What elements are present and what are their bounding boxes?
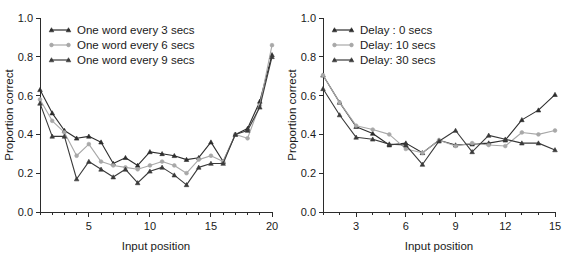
x-tick-label: 15 <box>549 220 561 232</box>
data-point <box>50 111 55 115</box>
legend-swatch-marker <box>350 43 354 47</box>
data-point <box>111 175 116 179</box>
right-legend: Delay : 0 secsDelay: 10 secsDelay: 30 se… <box>332 24 435 66</box>
data-point <box>123 155 128 159</box>
legend-label: Delay : 0 secs <box>360 24 432 36</box>
x-tick-label: 15 <box>205 220 217 232</box>
data-point <box>454 144 458 148</box>
legend-swatch-marker <box>50 43 54 47</box>
data-point <box>136 167 140 171</box>
data-point <box>520 118 525 122</box>
series-line <box>40 55 272 166</box>
data-point <box>486 133 491 137</box>
data-point <box>421 151 425 155</box>
x-tick-label: 9 <box>453 220 459 232</box>
left-series-2 <box>38 55 275 187</box>
legend-swatch-marker <box>333 43 337 47</box>
data-point <box>148 164 152 168</box>
x-tick-label: 20 <box>266 220 278 232</box>
y-tick-label: 0.0 <box>301 206 316 218</box>
data-point <box>50 119 54 123</box>
data-point <box>172 173 177 177</box>
data-point <box>321 73 325 77</box>
y-tick-label: 0.8 <box>301 51 316 63</box>
data-point <box>160 160 164 164</box>
data-point <box>537 133 541 137</box>
series-line <box>40 57 272 185</box>
x-tick-label: 6 <box>403 220 409 232</box>
data-point <box>209 154 213 158</box>
data-point <box>487 143 491 147</box>
y-tick-label: 0.0 <box>18 206 33 218</box>
data-point <box>75 154 79 158</box>
data-point <box>371 128 375 132</box>
data-point <box>246 136 250 140</box>
left-legend: One word every 3 secsOne word every 6 se… <box>49 24 195 66</box>
legend-swatch-marker <box>67 43 71 47</box>
chart-panel-right: 0.00.20.40.60.81.03691215Input positionP… <box>283 0 566 257</box>
data-point <box>553 92 558 96</box>
y-tick-label: 0.4 <box>301 128 316 140</box>
y-axis-title: Proportion correct <box>3 68 15 160</box>
y-tick-label: 1.0 <box>18 12 33 24</box>
y-tick-label: 0.4 <box>18 128 33 140</box>
y-tick-label: 1.0 <box>301 12 316 24</box>
data-point <box>160 165 165 169</box>
data-point <box>185 171 189 175</box>
y-axis-title: Proportion correct <box>286 68 298 160</box>
x-tick-label: 12 <box>499 220 511 232</box>
data-point <box>354 124 358 128</box>
data-point <box>111 164 115 168</box>
data-point <box>270 43 274 47</box>
data-point <box>197 158 201 162</box>
legend-label: One word every 9 secs <box>77 54 195 66</box>
y-tick-label: 0.6 <box>301 90 316 102</box>
figure-container: 0.00.20.40.60.81.05101520Input positionP… <box>0 0 566 257</box>
legend-label: Delay: 10 secs <box>360 39 436 51</box>
y-tick-label: 0.6 <box>18 90 33 102</box>
data-point <box>38 87 43 91</box>
x-tick-label: 5 <box>86 220 92 232</box>
y-tick-label: 0.2 <box>18 167 33 179</box>
y-tick-label: 0.2 <box>301 167 316 179</box>
x-tick-label: 3 <box>353 220 359 232</box>
axis-spines <box>323 18 555 212</box>
data-point <box>453 128 458 132</box>
data-point <box>503 144 507 148</box>
data-point <box>87 142 91 146</box>
data-point <box>99 160 103 164</box>
data-point <box>172 164 176 168</box>
data-point <box>209 140 214 144</box>
data-point <box>338 100 342 104</box>
data-point <box>520 131 524 135</box>
y-tick-label: 0.8 <box>18 51 33 63</box>
data-point <box>404 147 408 151</box>
legend-label: One word every 6 secs <box>77 39 195 51</box>
legend-label: One word every 3 secs <box>77 24 195 36</box>
x-axis-title: Input position <box>122 240 190 252</box>
data-point <box>321 87 326 91</box>
data-point <box>387 133 391 137</box>
data-point <box>99 167 104 171</box>
chart-panel-left: 0.00.20.40.60.81.05101520Input positionP… <box>0 0 283 257</box>
x-axis-title: Input position <box>405 240 473 252</box>
data-point <box>553 129 557 133</box>
data-point <box>470 141 474 145</box>
data-point <box>87 159 92 163</box>
right-chart-svg: 0.00.20.40.60.81.03691215Input positionP… <box>283 0 566 257</box>
left-chart-svg: 0.00.20.40.60.81.05101520Input positionP… <box>0 0 283 257</box>
legend-label: Delay: 30 secs <box>360 54 436 66</box>
x-tick-label: 10 <box>144 220 156 232</box>
